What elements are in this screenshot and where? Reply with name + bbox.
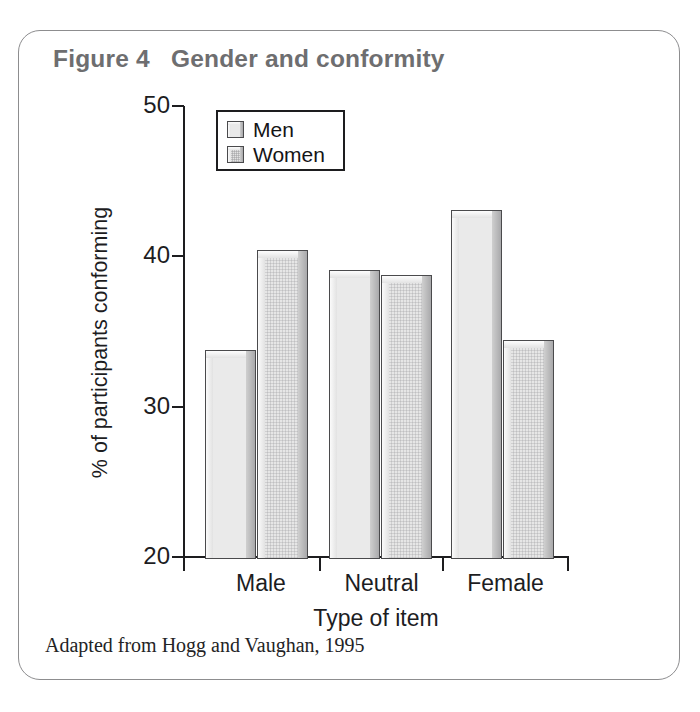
x-axis-title: Type of item (183, 605, 569, 632)
chart-plot-area: 50 40 30 20 % of participants conforming (0, 0, 700, 712)
y-axis-title: % of participants conforming (88, 183, 113, 503)
y-tick-label-20: 20 (118, 544, 170, 568)
bar-bevel-right (298, 251, 307, 558)
y-axis-line (183, 106, 185, 559)
y-tick-50 (172, 105, 184, 107)
legend-item-men: Men (227, 117, 343, 142)
x-tick-neutral-female (442, 557, 444, 571)
bar-bevel-right (492, 211, 501, 558)
x-tick-male-neutral (319, 557, 321, 571)
y-tick-label-30: 30 (118, 394, 170, 418)
x-tick-label-female: Female (443, 570, 568, 598)
legend-label-women: Women (253, 144, 325, 165)
y-tick-30 (172, 406, 184, 408)
bar-bevel-left (382, 276, 389, 558)
x-tick-label-male: Male (201, 570, 321, 598)
x-tick-end (567, 557, 569, 571)
bar-female-women (503, 340, 554, 559)
bar-female-men (451, 210, 502, 559)
bar-bevel-left (206, 351, 213, 558)
legend-label-men: Men (253, 119, 294, 140)
bar-male-men (205, 350, 256, 559)
bar-bevel-left (452, 211, 459, 558)
y-tick-40 (172, 255, 184, 257)
legend-swatch-women-icon (227, 146, 244, 163)
source-note: Adapted from Hogg and Vaughan, 1995 (45, 634, 365, 657)
bar-bevel-right (544, 341, 553, 558)
x-tick-label-neutral: Neutral (320, 570, 443, 598)
y-tick-label-40: 40 (118, 243, 170, 267)
y-tick-label-50: 50 (118, 93, 170, 117)
bar-neutral-women (381, 275, 432, 559)
bar-bevel-left (330, 271, 337, 558)
bar-male-women (257, 250, 308, 559)
bar-bevel-left (258, 251, 265, 558)
bar-bevel-right (422, 276, 431, 558)
bar-bevel-right (246, 351, 255, 558)
legend-swatch-men-icon (227, 121, 244, 138)
x-tick-start (183, 557, 185, 571)
legend-item-women: Women (227, 142, 343, 167)
bar-bevel-left (504, 341, 511, 558)
chart-legend: Men Women (216, 110, 345, 171)
bar-bevel-right (370, 271, 379, 558)
bar-neutral-men (329, 270, 380, 559)
